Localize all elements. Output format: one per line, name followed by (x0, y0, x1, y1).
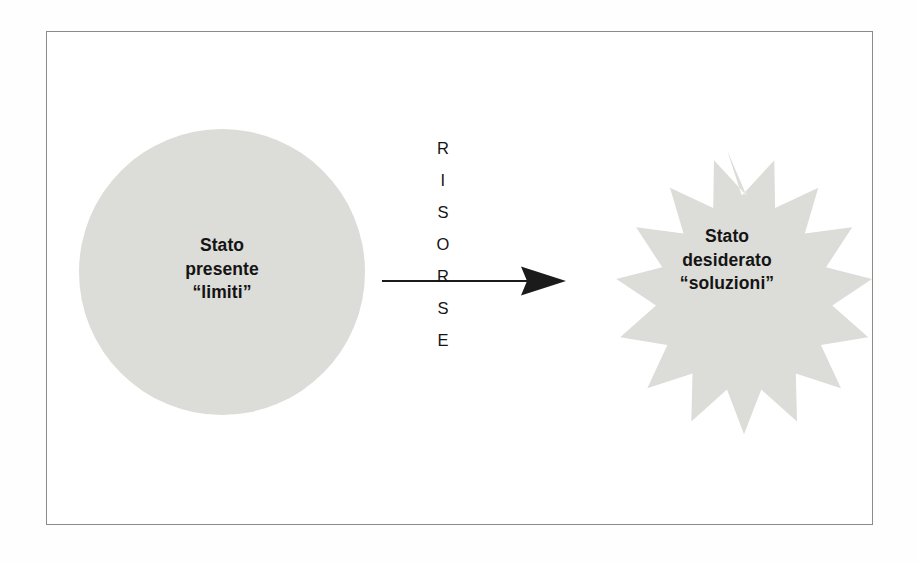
risorse-letter: S (428, 196, 458, 228)
risorse-letter: R (428, 260, 458, 292)
present-state-label: Stato presente “limiti” (122, 234, 322, 305)
risorse-letter: O (428, 228, 458, 260)
connector-arrow-head (521, 267, 566, 296)
risorse-vertical-word: R I S O R S E (428, 132, 458, 356)
risorse-letter: R (428, 132, 458, 164)
desired-state-label: Stato desiderato “soluzioni” (627, 225, 827, 296)
diagram-page: Stato presente “limiti” Stato desiderato… (0, 0, 919, 563)
risorse-letter: I (428, 164, 458, 196)
risorse-letter: E (428, 324, 458, 356)
risorse-letter: S (428, 292, 458, 324)
